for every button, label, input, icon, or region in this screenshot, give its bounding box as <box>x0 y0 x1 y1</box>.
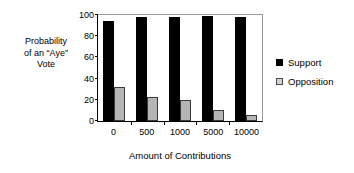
x-axis-tick-label: 5000 <box>197 127 230 137</box>
y-axis-title: Probability of an “Aye” Vote <box>8 36 84 71</box>
bar-chart-figure: Probability of an “Aye” Vote 10080604020… <box>0 0 354 173</box>
y-axis-tick-label: 60 <box>84 53 98 62</box>
bar-groups <box>98 15 262 121</box>
legend-label: Opposition <box>288 76 333 87</box>
x-axis-tick-mark <box>229 121 230 125</box>
bar-group <box>196 15 229 121</box>
bar-opposition-10000 <box>246 115 257 121</box>
x-axis-tick-mark <box>196 121 197 125</box>
legend-label: Support <box>288 57 321 68</box>
y-axis-tick-label: 80 <box>84 32 98 41</box>
legend-item-support: Support <box>276 55 333 69</box>
gray-square-icon <box>276 78 283 85</box>
bar-opposition-1000 <box>180 100 191 121</box>
legend-item-opposition: Opposition <box>276 74 333 88</box>
bar-group <box>131 15 164 121</box>
x-axis-tick-label: 1000 <box>163 127 196 137</box>
x-axis-title: Amount of Contributions <box>97 150 263 161</box>
bar-support-5000 <box>202 16 213 121</box>
x-axis-tick-label: 0 <box>97 127 130 137</box>
bar-group <box>164 15 197 121</box>
bar-support-0 <box>103 21 114 121</box>
chart-legend: SupportOpposition <box>276 55 333 93</box>
bar-group <box>229 15 262 121</box>
bar-opposition-500 <box>147 97 158 121</box>
x-axis-tick-mark <box>131 121 132 125</box>
x-axis-tick-labels: 05001000500010000 <box>97 127 263 137</box>
plot-area: 100806040200 <box>97 14 263 122</box>
x-axis-tick-mark <box>164 121 165 125</box>
y-axis-tick-label: 20 <box>84 95 98 104</box>
black-square-icon <box>276 59 283 66</box>
bar-support-1000 <box>169 17 180 121</box>
y-axis-tick-label: 40 <box>84 74 98 83</box>
bar-support-10000 <box>235 17 246 121</box>
y-axis-tick-label: 100 <box>79 11 98 20</box>
bar-opposition-5000 <box>213 110 224 121</box>
bar-group <box>98 15 131 121</box>
y-axis-title-line-1: Probability <box>8 36 84 48</box>
y-axis-tick-label: 0 <box>89 117 98 126</box>
bar-support-500 <box>136 17 147 121</box>
x-axis-tick-label: 10000 <box>230 127 263 137</box>
bar-opposition-0 <box>114 87 125 121</box>
x-axis-tick-label: 500 <box>130 127 163 137</box>
y-axis-title-line-3: Vote <box>8 59 84 71</box>
y-axis-title-line-2: of an “Aye” <box>8 48 84 60</box>
